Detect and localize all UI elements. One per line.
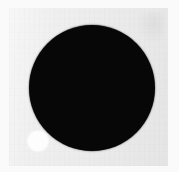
black-disc xyxy=(29,25,155,151)
white-dot xyxy=(28,131,48,151)
corner-smudge xyxy=(138,12,164,42)
figure-canvas: Scanned grayscale plate showing a large … xyxy=(0,0,179,172)
